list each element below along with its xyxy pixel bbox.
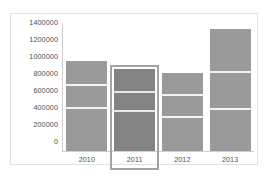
y-axis-tick-label: 400000 [33, 104, 58, 112]
bar-segment-divider [114, 91, 155, 93]
x-axis: 2010201120122013 [63, 153, 254, 167]
bar-group-2010[interactable] [66, 23, 107, 151]
bar-2010[interactable] [66, 61, 107, 151]
bar-segment-divider [162, 116, 203, 118]
y-axis-tick-label: 1000000 [29, 53, 58, 61]
bar-segment-divider [162, 94, 203, 96]
x-axis-tick-label-2012[interactable]: 2012 [159, 155, 207, 164]
x-axis-line [62, 151, 254, 152]
y-axis-tick-label: 1200000 [29, 36, 58, 44]
y-axis: 0200000400000600000800000100000012000001… [11, 14, 62, 164]
bar-segment-divider [66, 107, 107, 109]
bar-segment-divider [66, 84, 107, 86]
x-axis-tick-label-2010[interactable]: 2010 [63, 155, 111, 164]
bar-2012[interactable] [162, 73, 203, 151]
chart-frame: 0200000400000600000800000100000012000001… [10, 13, 258, 165]
y-axis-tick-label: 600000 [33, 87, 58, 95]
bar-group-2012[interactable] [162, 23, 203, 151]
bar-segment-divider [210, 108, 251, 110]
bar-2011[interactable] [114, 69, 155, 151]
bar-group-2013[interactable] [210, 23, 251, 151]
bar-2013[interactable] [210, 29, 251, 151]
bar-group-2011[interactable] [114, 23, 155, 151]
plot-area [63, 23, 254, 151]
y-axis-tick-label: 0 [54, 138, 58, 146]
y-axis-tick-label: 800000 [33, 70, 58, 78]
chart-plot-wrapper: 0200000400000600000800000100000012000001… [11, 14, 257, 164]
y-axis-tick-label: 1400000 [29, 19, 58, 27]
y-axis-tick-label: 200000 [33, 121, 58, 129]
bar-segment-divider [114, 110, 155, 112]
x-axis-tick-label-2011[interactable]: 2011 [111, 155, 159, 164]
bar-segment-divider [210, 71, 251, 73]
x-axis-tick-label-2013[interactable]: 2013 [206, 155, 254, 164]
